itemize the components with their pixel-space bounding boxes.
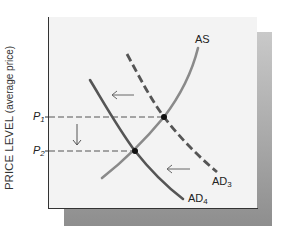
ad3-curve — [127, 54, 217, 172]
equilibrium-point-1 — [161, 114, 167, 120]
price-down-arrow — [73, 124, 81, 145]
p2-label: P2 — [33, 145, 45, 158]
ad3-label: AD3 — [212, 176, 232, 189]
shift-left-arrow-upper — [112, 91, 134, 99]
ad4-curve — [90, 80, 183, 199]
ad4-label: AD4 — [188, 193, 208, 206]
as-curve — [102, 48, 198, 178]
equilibrium-point-2 — [132, 148, 138, 154]
shift-left-arrow-lower — [167, 165, 190, 173]
p1-label: P1 — [33, 111, 45, 124]
as-label: AS — [195, 34, 210, 45]
